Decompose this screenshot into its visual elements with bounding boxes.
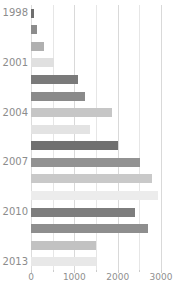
x-axis-tick-label: 0	[28, 273, 34, 282]
y-axis-tick-label: 2010	[3, 207, 28, 217]
y-axis-tick-label: 2013	[3, 257, 28, 267]
x-axis-tick-label: 2000	[106, 273, 129, 282]
x-axis-tick-label: 3000	[150, 273, 173, 282]
x-axis-minor-tick-mark	[96, 270, 97, 272]
bar-chart: 199820012004200720102013 0100020003000	[0, 0, 176, 292]
x-axis-tick-label: 1000	[63, 273, 86, 282]
x-axis-minor-tick-mark	[53, 270, 54, 272]
x-axis-minor-tick-mark	[139, 270, 140, 272]
gridline-major	[161, 5, 162, 270]
y-axis-tick-label: 2007	[3, 157, 28, 167]
x-axis-labels: 0100020003000	[31, 0, 161, 292]
y-axis-tick-label: 2004	[3, 108, 28, 118]
y-axis-tick-label: 2001	[3, 58, 28, 68]
y-axis-tick-label: 1998	[3, 8, 28, 18]
